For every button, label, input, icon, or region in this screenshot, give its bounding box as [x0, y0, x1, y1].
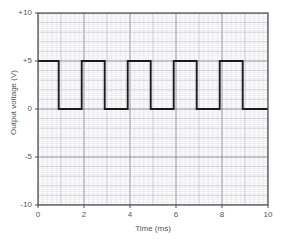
y-tick-label: +10 [6, 8, 32, 17]
x-tick-label: 8 [212, 210, 232, 219]
x-tick-label: 10 [258, 210, 278, 219]
plot-canvas [0, 0, 286, 243]
y-tick-label: -10 [6, 200, 32, 209]
chart-figure: +10+50-5-10 0246810 Output voltage (V) T… [0, 0, 286, 243]
x-tick-label: 4 [120, 210, 140, 219]
x-tick-label: 2 [74, 210, 94, 219]
x-tick-label: 6 [166, 210, 186, 219]
y-axis-title: Output voltage (V) [9, 48, 18, 158]
x-axis-title: Time (ms) [38, 224, 268, 233]
x-tick-label: 0 [28, 210, 48, 219]
